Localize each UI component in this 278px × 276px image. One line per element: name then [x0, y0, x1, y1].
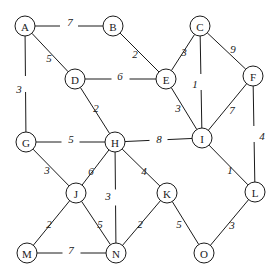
edge-weight-label: 6 [88, 165, 94, 177]
graph-node-d[interactable]: D [65, 69, 85, 89]
graph-edge [82, 201, 111, 244]
graph-edge [125, 140, 150, 141]
node-label: F [250, 71, 256, 83]
edge-weight-label: 3 [180, 46, 187, 58]
edge-weight-label: 7 [67, 16, 73, 28]
node-label: E [163, 74, 170, 86]
node-label: I [200, 133, 204, 145]
edge-weight-label: 4 [141, 165, 147, 177]
graph-edge [167, 138, 192, 139]
edge-weight-label: 2 [93, 102, 99, 114]
graph-node-j[interactable]: J [66, 183, 86, 203]
edge-weight-label: 3 [104, 190, 111, 202]
edge-weight-label: 7 [229, 104, 235, 116]
graph-node-b[interactable]: B [103, 16, 123, 36]
edge-weight-label: 2 [46, 218, 52, 230]
node-label: J [74, 188, 79, 200]
edge-weight-label: 8 [156, 133, 162, 145]
graph-edge [33, 149, 69, 186]
node-label: H [111, 137, 119, 149]
graph-node-c[interactable]: C [190, 16, 210, 36]
graph-edge [254, 142, 255, 182]
edge-weight-label: 3 [43, 164, 50, 176]
graph-node-a[interactable]: A [15, 16, 35, 36]
node-label: M [22, 248, 32, 260]
edge-weight-label: 1 [192, 78, 198, 90]
graph-node-n[interactable]: N [106, 243, 126, 263]
edge-weight-label: 5 [68, 133, 74, 145]
graph-node-o[interactable]: O [194, 243, 214, 263]
edge-weight-label: 2 [132, 48, 138, 60]
edge-weight-label: 6 [117, 70, 123, 82]
graph-node-g[interactable]: G [16, 132, 36, 152]
graph-node-k[interactable]: K [157, 183, 177, 203]
edge-weight-label: 9 [230, 43, 236, 55]
edge-weight-label: 7 [68, 244, 74, 256]
graph-edge [200, 36, 201, 74]
graph-node-h[interactable]: H [105, 132, 125, 152]
graph-edge [82, 150, 109, 185]
node-label: D [71, 74, 79, 86]
graph-node-e[interactable]: E [156, 69, 176, 89]
graph-edge [201, 90, 202, 128]
graph-svg: 7532319623745386341252537 ABCDEFGHIJKLMN… [0, 0, 278, 276]
graph-node-f[interactable]: F [243, 66, 263, 86]
graph-node-i[interactable]: I [192, 128, 212, 148]
node-label: N [112, 248, 120, 260]
edge-weight-label: 1 [227, 164, 233, 176]
graph-diagram: 7532319623745386341252537 ABCDEFGHIJKLMN… [0, 0, 278, 276]
node-label: A [21, 21, 29, 33]
node-label: L [252, 187, 259, 199]
node-label: B [109, 21, 116, 33]
edge-weight-label: 3 [228, 219, 235, 231]
node-label: K [163, 188, 171, 200]
edge-weight-label: 5 [97, 218, 103, 230]
node-label: O [200, 248, 208, 260]
graph-edge [253, 86, 254, 126]
graph-edge [120, 33, 159, 72]
edge-weight-label: 5 [176, 218, 182, 230]
graph-edge [208, 84, 246, 131]
graph-edge [207, 33, 245, 69]
node-label: G [22, 137, 30, 149]
graph-node-l[interactable]: L [245, 182, 265, 202]
edge-weight-label: 3 [174, 102, 181, 114]
graph-node-m[interactable]: M [17, 243, 37, 263]
edge-weight-label: 4 [259, 130, 265, 142]
node-label: C [196, 21, 203, 33]
edge-weight-label: 5 [46, 52, 52, 64]
edge-weight-label: 2 [137, 218, 143, 230]
edge-weight-label: 3 [15, 83, 22, 95]
